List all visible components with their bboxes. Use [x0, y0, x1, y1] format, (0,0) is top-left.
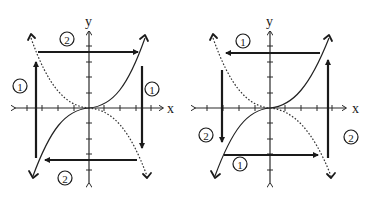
svg-text:2: 2	[62, 173, 68, 185]
left-badge-bottom: 2	[58, 171, 72, 185]
right-panel: y x 1 2 1 2	[195, 14, 359, 183]
svg-text:1: 1	[240, 36, 246, 48]
left-axes: y x	[15, 14, 174, 183]
svg-text:2: 2	[348, 132, 354, 144]
right-badge-bottom: 1	[233, 157, 247, 171]
right-badge-top: 1	[236, 34, 250, 48]
transformation-diagram: y x 2 1 1 2	[0, 0, 375, 199]
svg-text:1: 1	[149, 84, 155, 96]
left-badge-top: 2	[60, 32, 74, 46]
svg-text:1: 1	[237, 159, 243, 171]
right-y-label: y	[266, 14, 273, 29]
left-y-label: y	[85, 14, 92, 29]
svg-text:2: 2	[64, 34, 70, 46]
right-badge-right: 2	[344, 130, 358, 144]
left-x-label: x	[167, 101, 174, 116]
left-badge-right: 1	[145, 82, 159, 96]
right-x-label: x	[352, 101, 359, 116]
right-axes: y x	[195, 14, 359, 183]
right-badge-left: 2	[199, 128, 213, 142]
left-badge-left: 1	[13, 79, 27, 93]
svg-text:2: 2	[203, 130, 209, 142]
left-panel: y x 2 1 1 2	[13, 14, 174, 185]
left-dotted-end-bottom	[143, 173, 151, 178]
svg-text:1: 1	[17, 81, 23, 93]
